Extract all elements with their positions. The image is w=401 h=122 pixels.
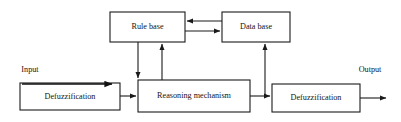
rule-base-label: Rule base [131,22,163,31]
fuzzy-inference-block-diagram: Rule base Data base Defuzzification Reas… [0,0,401,122]
box-defuzzification-output: Defuzzification [272,84,360,112]
diagram-canvas: Rule base Data base Defuzzification Reas… [0,0,401,122]
box-rule-base: Rule base [110,12,185,42]
data-base-label: Data base [240,22,272,31]
reasoning-mechanism-label: Reasoning mechanism [157,91,232,100]
input-label: Input [21,65,39,74]
defuzzification-input-label: Defuzzification [45,92,96,101]
output-label: Output [359,65,382,74]
defuzzification-output-label: Defuzzification [291,93,342,102]
box-data-base: Data base [222,12,290,42]
box-reasoning-mechanism: Reasoning mechanism [138,80,250,112]
box-defuzzification-input: Defuzzification [20,83,120,110]
